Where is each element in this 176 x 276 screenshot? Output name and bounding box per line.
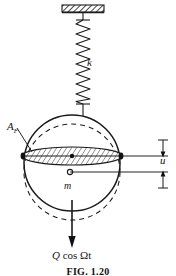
force-symbol: Q bbox=[52, 249, 60, 261]
area-label: AF bbox=[7, 121, 18, 135]
applied-force-label: Q cos Ωt bbox=[52, 250, 91, 261]
disc-center-dot bbox=[70, 154, 74, 158]
area-label-subscript: F bbox=[14, 127, 18, 134]
ceiling-support bbox=[62, 5, 104, 13]
mass-label: m bbox=[64, 181, 71, 191]
figure-container: k AF u m Q cos Ωt FIG. 1.20 bbox=[0, 0, 176, 276]
area-label-symbol: A bbox=[7, 120, 14, 132]
disc-left-node bbox=[21, 153, 26, 160]
force-function-text: cos Ωt bbox=[60, 249, 91, 261]
force-arrowhead bbox=[68, 236, 75, 248]
figure-caption: FIG. 1.20 bbox=[0, 266, 176, 276]
displacement-label: u bbox=[160, 155, 166, 166]
ceiling-hatch-block bbox=[62, 5, 104, 12]
cross-section-disc bbox=[21, 147, 124, 165]
spring-stiffness-label: k bbox=[87, 57, 92, 68]
mechanical-system-diagram bbox=[0, 0, 176, 276]
dimension-arrowhead-up bbox=[161, 171, 166, 177]
applied-force-arrow bbox=[68, 200, 75, 248]
